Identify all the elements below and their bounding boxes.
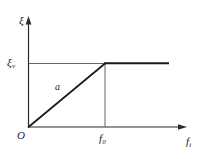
x-axis-label: fi bbox=[186, 136, 191, 149]
x-tick-label-f0: f0 bbox=[99, 133, 106, 146]
y-axis-arrowhead bbox=[26, 16, 32, 25]
x-axis-arrowhead bbox=[178, 124, 187, 130]
y-tick-xi-v-subscript: v bbox=[12, 62, 15, 70]
curve-rising-segment bbox=[29, 64, 106, 128]
y-tick-label-xi-v: ξv bbox=[7, 57, 15, 70]
y-axis-label: ξ bbox=[19, 15, 24, 26]
figure-container: ξ fi ξv f0 O a bbox=[0, 0, 202, 159]
x-axis-label-subscript: i bbox=[189, 141, 191, 149]
x-axis-group bbox=[29, 124, 188, 130]
origin-label: O bbox=[17, 130, 25, 141]
y-tick-xi-v-base: ξ bbox=[7, 56, 12, 68]
damping-ratio-curve bbox=[29, 63, 170, 127]
y-axis-group bbox=[26, 16, 32, 127]
x-tick-f0-subscript: 0 bbox=[102, 138, 106, 146]
slope-label: a bbox=[55, 82, 60, 92]
